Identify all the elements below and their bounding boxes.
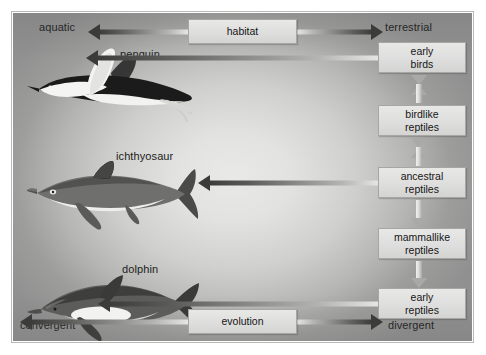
box-evolution: evolution [188, 309, 297, 334]
arrow-shaft [416, 84, 422, 103]
figure-root: aquatic terrestrial convergent divergent… [0, 0, 486, 355]
label-divergent: divergent [388, 319, 434, 331]
arrow-evolution-to-convergent [20, 313, 188, 331]
box-habitat: habitat [188, 19, 297, 44]
box-early-reptiles: early reptiles [378, 288, 466, 319]
box-line-2: reptiles [405, 244, 439, 257]
box-line-1: early [411, 291, 434, 304]
box-early-birds: early birds [378, 42, 466, 73]
label-aquatic: aquatic [39, 21, 75, 33]
box-ancestral-reptiles: ancestral reptiles [378, 167, 466, 198]
box-line-2: birds [411, 58, 434, 71]
arrow-habitat-to-terrestrial [297, 23, 383, 41]
box-line-1: ancestral [401, 170, 444, 183]
arrow-shaft [416, 147, 422, 166]
arrow-mammallike-to-early-reptiles [410, 261, 428, 288]
arrow-ancestral-to-birdlike [410, 138, 428, 166]
arrow-shaft [297, 320, 372, 325]
box-line-1: early [411, 45, 434, 58]
box-line-2: reptiles [405, 183, 439, 196]
box-birdlike-reptiles: birdlike reptiles [378, 105, 466, 136]
arrow-ancestral-reptiles-to-ichthyosaur [198, 174, 379, 192]
box-evolution-label: evolution [221, 315, 263, 328]
label-terrestrial: terrestrial [385, 21, 432, 33]
illustration-ichthyosaur [27, 161, 217, 243]
arrow-habitat-to-aquatic [88, 23, 188, 41]
diagram-plate: aquatic terrestrial convergent divergent… [13, 13, 472, 341]
arrow-shaft [416, 200, 422, 219]
arrowhead-right-icon [371, 24, 383, 40]
box-line-2: reptiles [405, 121, 439, 134]
arrow-birdlike-to-early-birds [410, 75, 428, 103]
arrow-ancestral-to-mammallike [410, 200, 428, 228]
arrow-early-birds-to-penguin [86, 49, 379, 67]
arrow-shaft [416, 261, 422, 279]
box-line-1: birdlike [405, 108, 438, 121]
arrow-shaft [31, 320, 188, 325]
box-mammallike-reptiles: mammallike reptiles [378, 228, 466, 259]
box-line-2: reptiles [405, 304, 439, 317]
box-habitat-label: habitat [227, 25, 259, 38]
arrow-shaft [99, 30, 188, 35]
arrow-shaft [209, 181, 379, 186]
arrow-evolution-to-divergent [297, 313, 383, 331]
box-line-1: mammallike [394, 231, 450, 244]
arrowhead-down-icon [411, 218, 427, 228]
arrow-shaft [297, 30, 372, 35]
arrowhead-down-icon [411, 278, 427, 288]
arrow-shaft [109, 302, 379, 307]
arrow-shaft [97, 56, 379, 61]
